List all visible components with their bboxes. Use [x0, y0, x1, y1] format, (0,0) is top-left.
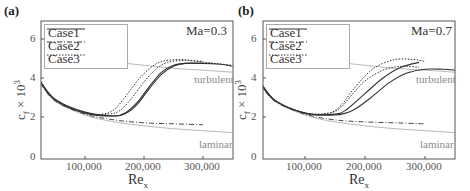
curve-case2 — [41, 84, 203, 125]
dashdot-line-icon — [45, 39, 85, 45]
x-axis-label-b: Rex — [349, 172, 369, 190]
dashdot-line-icon — [267, 39, 307, 45]
curve-case3b — [260, 66, 419, 114]
mach-label-b: Ma=0.7 — [411, 23, 452, 39]
mach-label-a: Ma=0.3 — [186, 23, 227, 39]
xlabel-sub: x — [144, 180, 149, 190]
laminar-label-a: laminar — [199, 138, 233, 150]
x-tick-300000: 300,000 — [184, 160, 220, 172]
panel-label-a: (a) — [4, 3, 19, 19]
dotted-line-icon — [267, 52, 307, 58]
x-axis-label-a: Rex — [128, 172, 148, 190]
y-tick-0: 0 — [30, 150, 36, 162]
x-tick-200000: 200,000 — [125, 160, 161, 172]
x-tick-100000: 100,000 — [286, 160, 322, 172]
panel-label-b: (b) — [238, 3, 254, 19]
turbulent-label-a: turbulent — [194, 73, 234, 85]
chart-panel-a: (a) Ma=0.3 6 4 2 0 100,000 200,000 300,0… — [0, 0, 235, 191]
dotted-line-icon — [45, 52, 85, 58]
ylabel-c: c — [234, 114, 249, 120]
ylabel-rest: × 10 — [234, 84, 249, 111]
ylabel-sup: 3 — [233, 80, 243, 85]
laminar-label-b: laminar — [420, 138, 454, 150]
ylabel-c: c — [13, 114, 28, 120]
legend-item-case3: Case3 — [267, 52, 302, 66]
ylabel-sup: 3 — [12, 80, 22, 85]
legend-item-case3: Case3 — [45, 52, 80, 66]
xlabel-re: Re — [128, 172, 144, 187]
y-tick-6: 6 — [251, 32, 257, 44]
turbulent-label-b: turbulent — [416, 73, 456, 85]
y-axis-label-a: cf × 103 — [12, 80, 31, 120]
x-tick-100000: 100,000 — [66, 160, 102, 172]
x-tick-300000: 300,000 — [406, 160, 442, 172]
xlabel-sub: x — [365, 180, 370, 190]
ylabel-rest: × 10 — [13, 84, 28, 111]
legend-b: Case1 Case2 Case3 — [266, 24, 350, 69]
solid-line-icon — [267, 26, 307, 32]
x-tick-200000: 200,000 — [346, 160, 382, 172]
xlabel-re: Re — [349, 172, 365, 187]
y-tick-0: 0 — [251, 150, 257, 162]
ylabel-sub: f — [21, 111, 31, 114]
curve-case1b — [41, 63, 203, 116]
solid-line-icon — [45, 26, 85, 32]
y-tick-6: 6 — [30, 32, 36, 44]
ylabel-sub: f — [242, 111, 252, 114]
legend-a: Case1 Case2 Case3 — [44, 24, 128, 69]
chart-panel-b: (b) Ma=0.7 6 4 2 0 100,000 200,000 300,0… — [235, 0, 470, 191]
y-axis-label-b: cf × 103 — [233, 80, 252, 120]
